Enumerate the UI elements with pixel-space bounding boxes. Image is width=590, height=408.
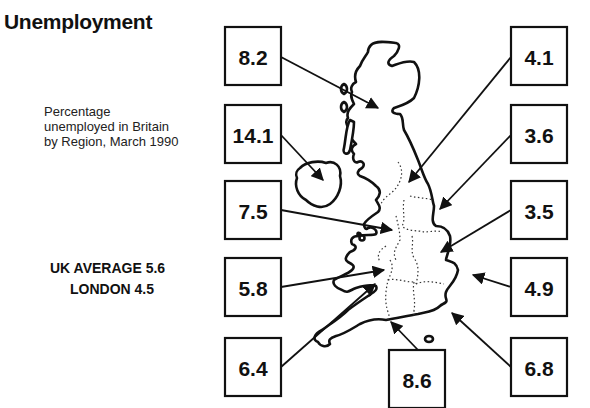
anglesey — [360, 236, 365, 241]
region-value-label: 6.4 — [238, 357, 268, 380]
island — [341, 102, 347, 112]
region-value-box: 8.2 — [225, 27, 281, 85]
callout-arrow — [281, 284, 375, 367]
region-value-label: 3.5 — [524, 200, 554, 223]
uk-map-chart: 8.214.17.55.86.48.64.13.63.54.96.8 — [0, 0, 590, 408]
region-value-label: 8.6 — [402, 369, 431, 392]
region-value-label: 14.1 — [233, 124, 274, 147]
region-value-box: 4.1 — [511, 27, 567, 85]
region-value-box: 4.9 — [511, 258, 567, 316]
region-value-box: 8.6 — [389, 350, 445, 408]
callout-arrow — [409, 57, 511, 182]
region-value-box: 3.6 — [511, 105, 567, 163]
region-value-box: 7.5 — [225, 181, 281, 239]
region-value-box: 6.8 — [511, 338, 567, 396]
region-value-box: 6.4 — [225, 338, 281, 396]
region-value-box: 14.1 — [225, 105, 281, 163]
region-value-label: 5.8 — [238, 277, 268, 300]
region-value-box: 3.5 — [511, 181, 567, 239]
callout-arrow — [440, 135, 511, 209]
northern-ireland-outline — [296, 162, 341, 207]
callout-arrow — [391, 322, 418, 350]
callout-arrow — [441, 210, 511, 252]
callout-arrow — [452, 313, 511, 367]
region-value-label: 4.9 — [524, 277, 553, 300]
isle-of-wight — [425, 336, 433, 342]
region-value-label: 7.5 — [238, 200, 268, 223]
region-value-label: 6.8 — [524, 357, 554, 380]
callout-arrow — [473, 275, 511, 287]
region-value-label: 3.6 — [524, 124, 553, 147]
region-value-label: 8.2 — [238, 46, 267, 69]
region-value-label: 4.1 — [524, 46, 554, 69]
region-value-box: 5.8 — [225, 258, 281, 316]
